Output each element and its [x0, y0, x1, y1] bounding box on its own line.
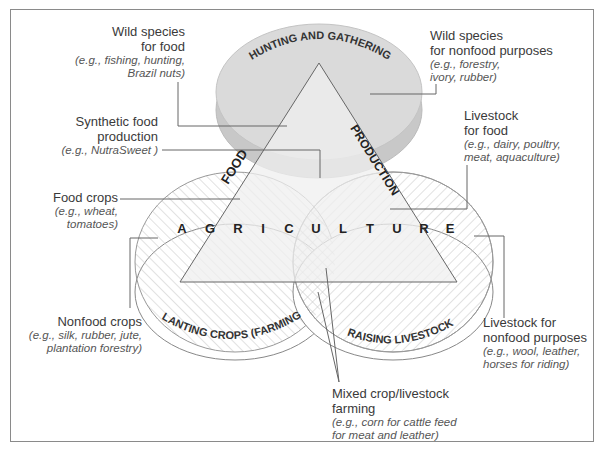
svg-text:R: R [419, 221, 429, 236]
svg-text:I: I [261, 221, 265, 236]
callout-nonfood-crops: Nonfood crops (e.g., silk, rubber, jute,… [10, 314, 142, 355]
callout-wild-food: Wild species for food (e.g., fishing, hu… [40, 24, 185, 80]
callout-food-crops: Food crops (e.g., wheat, tomatoes) [20, 190, 118, 231]
svg-text:C: C [284, 221, 294, 236]
callout-livestock-food: Livestock for food (e.g., dairy, poultry… [464, 108, 599, 164]
svg-text:T: T [366, 221, 374, 236]
svg-text:L: L [339, 221, 347, 236]
svg-text:G: G [205, 221, 215, 236]
svg-text:U: U [392, 221, 401, 236]
svg-text:E: E [446, 221, 455, 236]
svg-text:U: U [311, 221, 320, 236]
callout-synthetic-food: Synthetic food production (e.g., NutraSw… [20, 114, 158, 157]
callout-wild-nonfood: Wild species for nonfood purposes (e.g.,… [430, 28, 580, 84]
svg-text:R: R [233, 221, 243, 236]
svg-text:A: A [177, 221, 187, 236]
callout-livestock-nonfood: Livestock for nonfood purposes (e.g., wo… [483, 315, 598, 371]
callout-mixed-farming: Mixed crop/livestock farming (e.g., corn… [332, 386, 492, 442]
